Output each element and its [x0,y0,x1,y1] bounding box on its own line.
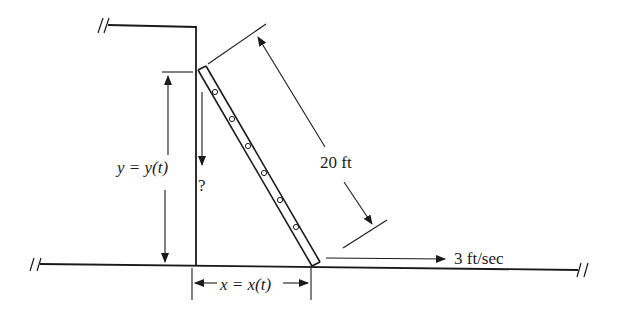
height-label: y = y(t) [117,159,168,176]
ladder-diagram: y = y(t) ? 20 ft x = x(t) 3 ft/sec [0,0,618,315]
diagram-graphics [0,0,618,315]
distance-label: x = x(t) [220,276,271,293]
ladder [198,66,320,266]
ladder-length-label: 20 ft [320,154,352,171]
unknown-rate-label: ? [198,177,206,194]
velocity-arrow [326,258,445,259]
bottom-speed-label: 3 ft/sec [454,250,504,267]
wall [98,18,196,265]
ladder-length-dimension [208,24,387,248]
